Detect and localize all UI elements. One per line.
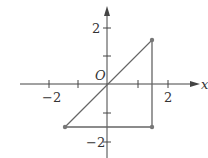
point-marker (150, 125, 154, 129)
coordinate-diagram: −2 2 2 −2 O x (0, 0, 208, 158)
y-tick-label: 2 (92, 21, 100, 36)
point-marker (150, 38, 154, 42)
point-marker (63, 125, 67, 129)
y-axis-arrow-icon (104, 6, 110, 16)
x-tick-label: −2 (42, 90, 61, 105)
x-axis-arrow-icon (190, 81, 200, 87)
y-tick-label: −2 (86, 135, 105, 150)
origin-label: O (95, 68, 106, 83)
x-axis-label: x (201, 77, 208, 92)
x-tick-label: 2 (164, 90, 172, 105)
